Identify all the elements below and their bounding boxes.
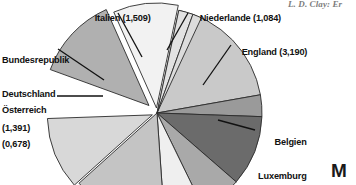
label-niederlande: Niederlande (1,084) — [190, 2, 281, 36]
label-niederlande-text: Niederlande (1,084) — [200, 13, 281, 23]
label-oesterreich-line2: (0,678) — [2, 139, 46, 150]
label-oesterreich-line1: Österreich — [2, 105, 46, 116]
label-belgien-luxemburg: Belgien Luxemburg (0,559) — [258, 115, 307, 185]
label-italien-text: Italien (1,509) — [95, 13, 151, 23]
label-belgien-line2: Luxemburg — [258, 171, 307, 182]
label-england: England (3,190) — [232, 36, 307, 70]
label-england-text: England (3,190) — [242, 47, 308, 57]
page-running-head: L. D. Clay: Er — [288, 0, 342, 9]
label-italien: Italien (1,509) — [85, 2, 151, 36]
label-brd-line1: Bundesrepublik — [2, 55, 69, 66]
page-folio-mark: M — [331, 160, 347, 182]
label-belgien-line1: Belgien — [258, 137, 307, 148]
label-oesterreich: Österreich (0,678) — [2, 83, 46, 173]
pie-chart-figure: Italien (1,509) Niederlande (1,084) Engl… — [0, 0, 356, 185]
